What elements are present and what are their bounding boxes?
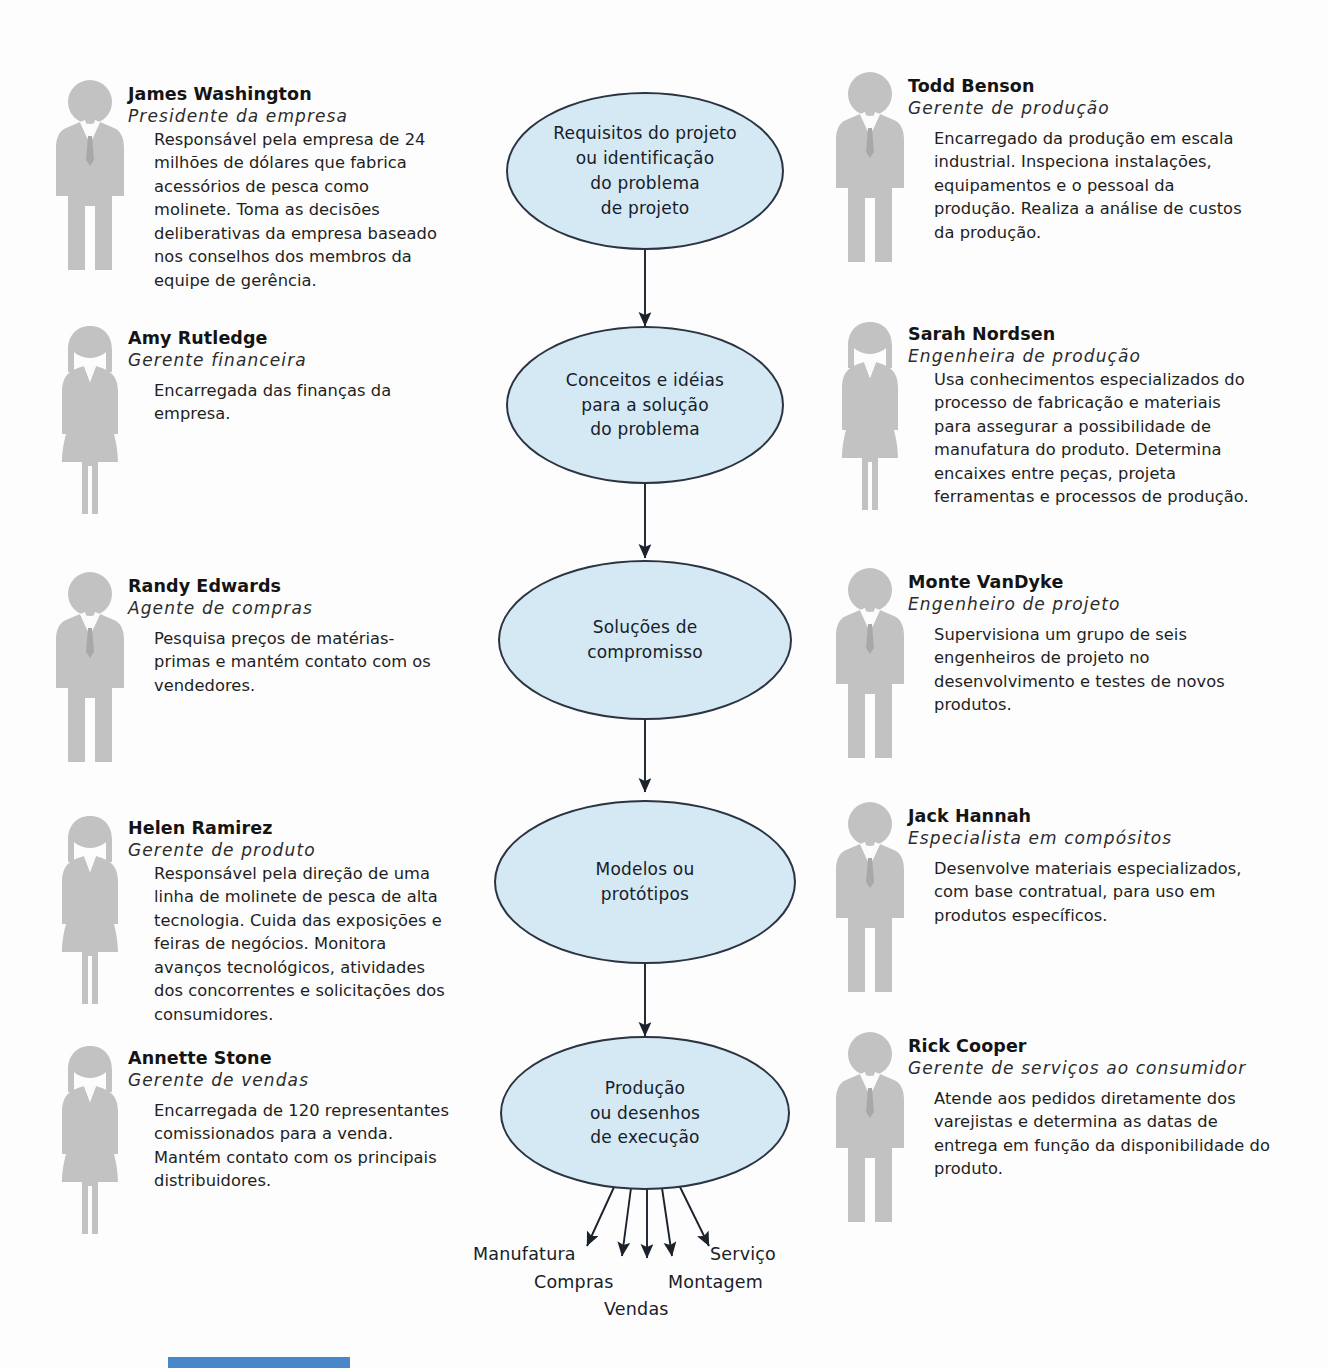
arrow-out-manufatura bbox=[587, 1185, 615, 1246]
person-name: Todd Benson bbox=[908, 76, 1252, 97]
person-card-helen-ramirez[interactable]: Helen Ramirez Gerente de produto Respons… bbox=[52, 812, 452, 1026]
output-label-manufatura: Manufatura bbox=[473, 1244, 576, 1264]
person-role: Engenheiro de projeto bbox=[908, 594, 1252, 614]
flow-node-label: Soluções de compromisso bbox=[587, 615, 703, 665]
person-name: Annette Stone bbox=[128, 1048, 452, 1069]
person-role: Gerente financeira bbox=[128, 350, 442, 370]
person-role: Gerente de produto bbox=[128, 840, 452, 860]
male-figure bbox=[832, 800, 908, 996]
person-description: Responsável pela empresa de 24 milhões d… bbox=[128, 128, 442, 292]
person-role: Gerente de vendas bbox=[128, 1070, 452, 1090]
person-description: Supervisiona um grupo de seis engenheiro… bbox=[908, 623, 1252, 717]
output-label-servico: Serviço bbox=[710, 1244, 776, 1264]
flow-node-requisitos[interactable]: Requisitos do projeto ou identificação d… bbox=[506, 92, 784, 250]
person-role: Especialista em compósitos bbox=[908, 828, 1262, 848]
person-description: Desenvolve materiais especializados, com… bbox=[908, 857, 1262, 927]
output-label-vendas: Vendas bbox=[604, 1299, 669, 1319]
arrow-out-servico bbox=[679, 1185, 709, 1246]
person-name: Randy Edwards bbox=[128, 576, 442, 597]
male-figure bbox=[52, 570, 128, 766]
female-figure bbox=[52, 1042, 128, 1238]
person-role: Engenheira de produção bbox=[908, 346, 1262, 366]
person-name: James Washington bbox=[128, 84, 442, 105]
person-name: Jack Hannah bbox=[908, 806, 1262, 827]
flow-node-conceitos[interactable]: Conceitos e idéias para a solução do pro… bbox=[506, 326, 784, 484]
person-role: Presidente da empresa bbox=[128, 106, 442, 126]
person-card-annette-stone[interactable]: Annette Stone Gerente de vendas Encarreg… bbox=[52, 1042, 452, 1238]
male-figure bbox=[832, 566, 908, 762]
flow-node-modelos[interactable]: Modelos ou protótipos bbox=[494, 800, 796, 964]
person-card-james-washington[interactable]: James Washington Presidente da empresa R… bbox=[52, 78, 442, 292]
person-description: Encarregada de 120 representantes comiss… bbox=[128, 1099, 452, 1193]
person-card-rick-cooper[interactable]: Rick Cooper Gerente de serviços ao consu… bbox=[832, 1030, 1272, 1226]
person-card-monte-vandyke[interactable]: Monte VanDyke Engenheiro de projeto Supe… bbox=[832, 566, 1252, 762]
arrow-out-compras bbox=[622, 1188, 631, 1256]
output-label-compras: Compras bbox=[534, 1272, 614, 1292]
flow-node-label: Produção ou desenhos de execução bbox=[590, 1076, 700, 1150]
male-figure bbox=[832, 70, 908, 266]
person-card-sarah-nordsen[interactable]: Sarah Nordsen Engenheira de produção Usa… bbox=[832, 318, 1262, 514]
female-figure bbox=[832, 318, 908, 514]
person-card-jack-hannah[interactable]: Jack Hannah Especialista em compósitos D… bbox=[832, 800, 1262, 996]
arrow-out-montagem bbox=[662, 1188, 672, 1256]
flow-node-producao[interactable]: Produção ou desenhos de execução bbox=[500, 1036, 790, 1190]
person-description: Encarregada das finanças da empresa. bbox=[128, 379, 442, 426]
person-card-randy-edwards[interactable]: Randy Edwards Agente de compras Pesquisa… bbox=[52, 570, 442, 766]
person-role: Gerente de serviços ao consumidor bbox=[908, 1058, 1272, 1078]
flow-node-solucoes[interactable]: Soluções de compromisso bbox=[498, 560, 792, 720]
person-name: Rick Cooper bbox=[908, 1036, 1272, 1057]
flow-node-label: Conceitos e idéias para a solução do pro… bbox=[566, 368, 724, 442]
output-label-montagem: Montagem bbox=[668, 1272, 763, 1292]
male-figure bbox=[52, 78, 128, 274]
female-figure bbox=[52, 322, 128, 518]
person-description: Encarregado da produção em escala indust… bbox=[908, 127, 1252, 244]
flow-node-label: Modelos ou protótipos bbox=[596, 857, 695, 907]
person-description: Pesquisa preços de matérias-primas e man… bbox=[128, 627, 442, 697]
diagram-page: Requisitos do projeto ou identificação d… bbox=[0, 0, 1329, 1368]
male-figure bbox=[832, 1030, 908, 1226]
person-description: Atende aos pedidos diretamente dos varej… bbox=[908, 1087, 1272, 1181]
person-description: Responsável pela direção de uma linha de… bbox=[128, 862, 452, 1026]
person-card-amy-rutledge[interactable]: Amy Rutledge Gerente financeira Encarreg… bbox=[52, 322, 442, 518]
scan-artifact-bar bbox=[168, 1357, 350, 1368]
person-name: Helen Ramirez bbox=[128, 818, 452, 839]
person-role: Gerente de produção bbox=[908, 98, 1252, 118]
female-figure bbox=[52, 812, 128, 1008]
person-role: Agente de compras bbox=[128, 598, 442, 618]
person-name: Sarah Nordsen bbox=[908, 324, 1262, 345]
person-name: Monte VanDyke bbox=[908, 572, 1252, 593]
person-name: Amy Rutledge bbox=[128, 328, 442, 349]
person-description: Usa conhecimentos especializados do proc… bbox=[908, 368, 1262, 509]
flow-node-label: Requisitos do projeto ou identificação d… bbox=[553, 121, 737, 220]
person-card-todd-benson[interactable]: Todd Benson Gerente de produção Encarreg… bbox=[832, 70, 1252, 266]
